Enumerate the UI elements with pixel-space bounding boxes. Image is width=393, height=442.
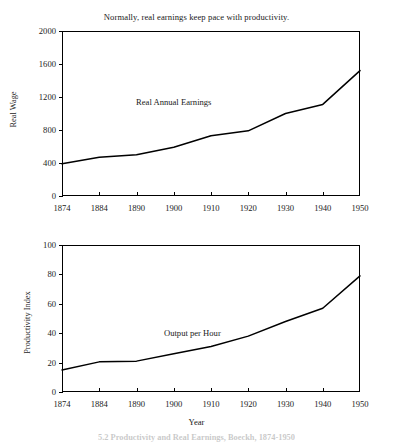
- series-label-output-per-hour: Output per Hour: [164, 328, 221, 338]
- x-axis-label-bottom: Year: [0, 417, 393, 427]
- figure-caption: 5.2 Productivity and Real Earnings, Boec…: [0, 433, 393, 442]
- series-polyline: [62, 276, 360, 370]
